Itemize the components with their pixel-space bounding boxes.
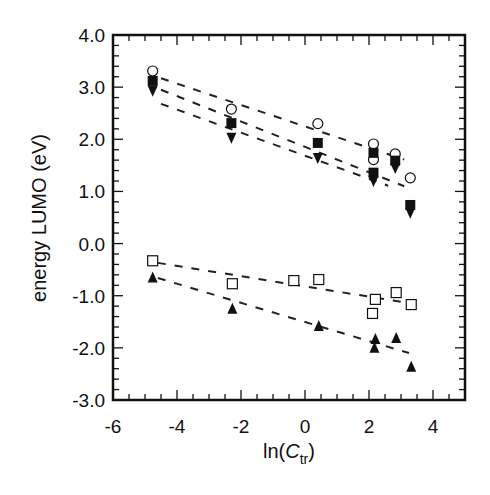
marker-open-circle bbox=[368, 139, 378, 149]
marker-open-circle bbox=[226, 104, 236, 114]
marker-filled-up-triangle bbox=[406, 361, 416, 372]
y-tick-label: -1.0 bbox=[72, 286, 105, 307]
marker-open-circle bbox=[148, 66, 158, 76]
marker-filled-down-triangle bbox=[226, 133, 236, 144]
y-tick-label: 2.0 bbox=[79, 129, 105, 150]
x-tick-label: 4 bbox=[428, 416, 439, 437]
y-tick-label: 1.0 bbox=[79, 181, 105, 202]
marker-filled-down-triangle bbox=[148, 86, 158, 97]
marker-filled-square bbox=[148, 76, 158, 86]
fit-line bbox=[161, 90, 404, 186]
marker-filled-square bbox=[368, 148, 378, 158]
plot-border bbox=[113, 35, 465, 400]
x-tick-label: 2 bbox=[364, 416, 375, 437]
marker-open-square bbox=[368, 308, 378, 318]
marker-open-square bbox=[391, 288, 401, 298]
y-tick-label: 4.0 bbox=[79, 25, 105, 46]
marker-filled-square bbox=[226, 118, 236, 128]
marker-open-square bbox=[314, 275, 324, 285]
x-tick-label: -4 bbox=[169, 416, 186, 437]
y-tick-label: 3.0 bbox=[79, 77, 105, 98]
chart: -6-4-20244.03.02.01.00.0-1.0-2.0-3.0 ene… bbox=[0, 0, 490, 495]
marker-filled-up-triangle bbox=[227, 303, 237, 314]
x-tick-label: -6 bbox=[105, 416, 122, 437]
marker-filled-down-triangle bbox=[405, 208, 415, 219]
x-axis-title: ln(Ctr) bbox=[263, 440, 315, 467]
marker-filled-up-triangle bbox=[148, 271, 158, 282]
marker-filled-up-triangle bbox=[314, 320, 324, 331]
tick-labels: -6-4-20244.03.02.01.00.0-1.0-2.0-3.0 bbox=[72, 25, 438, 437]
marker-open-square bbox=[289, 276, 299, 286]
marker-filled-down-triangle bbox=[390, 163, 400, 174]
marker-filled-up-triangle bbox=[370, 333, 380, 344]
y-tick-label: -2.0 bbox=[72, 338, 105, 359]
marker-open-square bbox=[148, 256, 158, 266]
x-tick-label: 0 bbox=[300, 416, 311, 437]
plot-frame bbox=[113, 35, 465, 400]
marker-filled-square bbox=[313, 138, 323, 148]
y-tick-label: 0.0 bbox=[79, 234, 105, 255]
marker-filled-down-triangle bbox=[368, 176, 378, 187]
y-tick-label: -3.0 bbox=[72, 390, 105, 411]
fit-line bbox=[161, 78, 404, 159]
x-tick-label: -2 bbox=[233, 416, 250, 437]
marker-open-square bbox=[227, 279, 237, 289]
y-axis-title: energy LUMO (eV) bbox=[28, 134, 50, 302]
marker-open-square bbox=[406, 300, 416, 310]
marker-open-circle bbox=[405, 173, 415, 183]
data-points bbox=[148, 66, 417, 372]
marker-open-square bbox=[370, 294, 380, 304]
marker-filled-up-triangle bbox=[391, 332, 401, 343]
marker-open-circle bbox=[313, 119, 323, 129]
